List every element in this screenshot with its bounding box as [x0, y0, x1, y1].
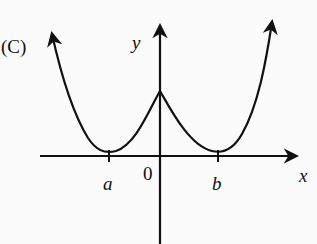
graph-figure: (C) y x 0 a b — [0, 0, 317, 244]
curve-left — [52, 34, 160, 152]
x-axis-label: x — [299, 166, 307, 185]
graph-svg — [0, 0, 317, 244]
y-axis-label: y — [132, 33, 140, 52]
tick-label-a: a — [103, 174, 113, 193]
tick-label-b: b — [212, 174, 222, 193]
option-label: (C) — [1, 37, 26, 56]
curve-right — [160, 22, 272, 152]
origin-label: 0 — [143, 164, 153, 183]
